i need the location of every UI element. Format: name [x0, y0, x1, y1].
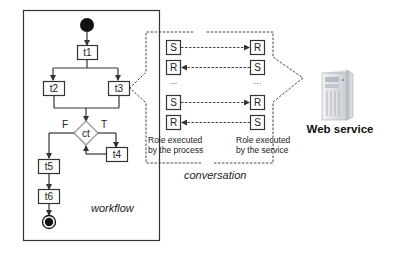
service-role-caption-line1: Role executed [236, 135, 291, 145]
message-row-2: R S [167, 61, 265, 75]
conversation-label: conversation [184, 169, 246, 181]
svg-text:R: R [254, 97, 261, 108]
workflow-label: workflow [91, 202, 135, 214]
svg-text:S: S [254, 62, 261, 73]
svg-text:t6: t6 [45, 191, 54, 202]
true-label: T [101, 119, 107, 130]
decision-ct: ct [74, 121, 98, 145]
svg-text:t5: t5 [45, 161, 54, 172]
svg-text:t3: t3 [115, 83, 124, 94]
svg-text:S: S [254, 117, 261, 128]
task-t5: t5 [39, 160, 60, 174]
server-icon [322, 70, 353, 120]
process-role-caption-line2: by the process [148, 145, 203, 155]
task-t3: t3 [109, 82, 130, 96]
svg-text:R: R [254, 42, 261, 53]
message-row-3: S R [167, 96, 265, 110]
svg-text:t2: t2 [50, 83, 59, 94]
workflow-conversation-diagram: t1 t2 t3 ct F T t4 t5 [0, 0, 397, 255]
end-node [43, 216, 56, 229]
svg-text:R: R [170, 62, 177, 73]
ellipsis-right: ... [254, 76, 262, 86]
ellipsis-left: ... [170, 76, 178, 86]
task-t1: t1 [78, 46, 98, 60]
service-role-caption-line2: by the service [236, 145, 289, 155]
svg-text:S: S [170, 42, 177, 53]
svg-text:R: R [170, 117, 177, 128]
svg-text:S: S [170, 97, 177, 108]
task-t6: t6 [39, 190, 60, 204]
process-role-caption-line1: Role executed [148, 135, 203, 145]
task-t2: t2 [44, 82, 65, 96]
start-node [80, 18, 94, 32]
web-service-label: Web service [307, 123, 374, 135]
message-row-1: S R [167, 41, 265, 55]
svg-text:ct: ct [82, 128, 90, 139]
svg-text:t1: t1 [83, 47, 92, 58]
message-row-4: R S [167, 116, 265, 130]
task-t4: t4 [107, 148, 128, 162]
false-label: F [62, 119, 68, 130]
svg-text:t4: t4 [113, 149, 122, 160]
